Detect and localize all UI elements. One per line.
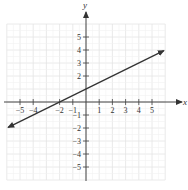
x-axis-label: x bbox=[182, 97, 187, 107]
y-tick-label: 4 bbox=[77, 46, 81, 55]
y-tick-label: −4 bbox=[72, 150, 81, 159]
coordinate-plane: −5−4−2−1123455432−1−2−3−4−5 x y bbox=[0, 0, 188, 190]
y-tick-label: 2 bbox=[77, 72, 81, 81]
line-chart: −5−4−2−1123455432−1−2−3−4−5 x y bbox=[0, 0, 188, 190]
y-tick-label: −3 bbox=[72, 137, 81, 146]
x-tick-label: 3 bbox=[124, 106, 128, 115]
x-tick-label: −5 bbox=[16, 106, 25, 115]
x-tick-label: 2 bbox=[110, 106, 114, 115]
y-tick-label: −5 bbox=[72, 163, 81, 172]
y-tick-label: 3 bbox=[77, 59, 81, 68]
x-tick-label: −4 bbox=[29, 106, 38, 115]
x-tick-label: −2 bbox=[55, 106, 64, 115]
y-tick-label: −2 bbox=[72, 124, 81, 133]
x-tick-label: 1 bbox=[97, 106, 101, 115]
y-tick-label: −1 bbox=[72, 111, 81, 120]
x-tick-label: 4 bbox=[137, 106, 141, 115]
y-axis-label: y bbox=[82, 0, 87, 10]
x-tick-label: 5 bbox=[150, 106, 154, 115]
y-tick-label: 5 bbox=[77, 33, 81, 42]
